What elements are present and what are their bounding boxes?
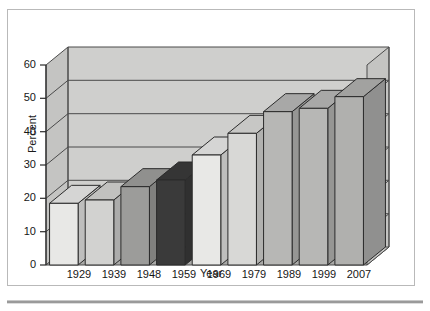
y-axis (40, 65, 46, 265)
y-tick-label-20: 20 (10, 191, 36, 203)
bottom-divider (7, 300, 423, 304)
bar-chart-3d (8, 10, 414, 285)
y-tick-label-50: 50 (10, 91, 36, 103)
chart-frame: 60 50 40 30 20 10 0 Percent 1929 1939 19… (7, 9, 415, 286)
bar-2007 (335, 79, 386, 265)
y-axis-title: Percent (26, 104, 38, 164)
x-axis-title: Year (8, 267, 414, 279)
y-tick-label-60: 60 (10, 58, 36, 70)
y-tick-label-10: 10 (10, 225, 36, 237)
